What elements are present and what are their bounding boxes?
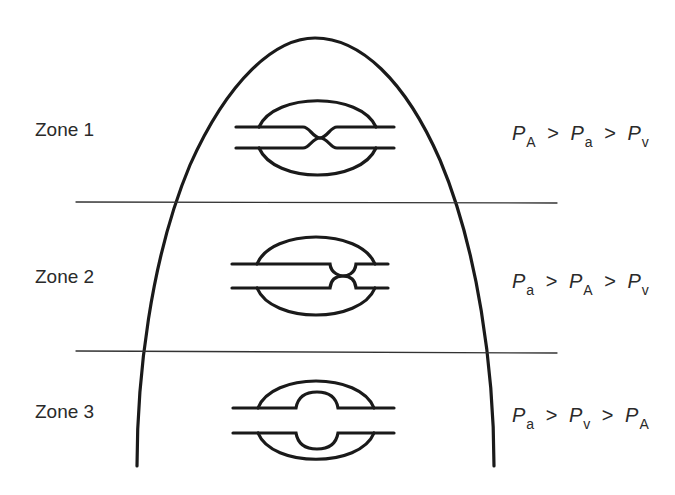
zone-1-label: Zone 1 bbox=[35, 119, 94, 141]
pressure-symbol: P bbox=[571, 122, 584, 144]
pressure-symbol: P bbox=[627, 270, 640, 292]
zone1-vessel-icon bbox=[236, 101, 394, 175]
pressure-subscript: A bbox=[639, 416, 648, 432]
zone-2-label: Zone 2 bbox=[35, 266, 94, 288]
zone-1-pressure-relation: PA > Pa > Pv bbox=[512, 122, 649, 145]
pressure-subscript: A bbox=[526, 134, 535, 150]
greater-than: > bbox=[604, 122, 616, 144]
pressure-symbol: P bbox=[512, 122, 525, 144]
pressure-subscript: a bbox=[585, 134, 593, 150]
greater-than: > bbox=[604, 270, 616, 292]
zone-3-pressure-relation: Pa > Pv > PA bbox=[512, 404, 649, 427]
pressure-symbol: P bbox=[569, 270, 582, 292]
greater-than: > bbox=[546, 270, 558, 292]
zone-2-pressure-relation: Pa > PA > Pv bbox=[512, 270, 649, 293]
zone2-vessel-icon bbox=[232, 237, 388, 315]
greater-than: > bbox=[546, 404, 558, 426]
greater-than: > bbox=[547, 122, 559, 144]
pressure-symbol: P bbox=[627, 122, 640, 144]
pressure-subscript: v bbox=[642, 134, 649, 150]
zone-divider-2-3 bbox=[76, 351, 557, 353]
pressure-subscript: a bbox=[526, 282, 534, 298]
greater-than: > bbox=[602, 404, 614, 426]
pressure-subscript: A bbox=[583, 282, 592, 298]
pressure-symbol: P bbox=[512, 404, 525, 426]
pressure-symbol: P bbox=[512, 270, 525, 292]
pressure-subscript: v bbox=[642, 282, 649, 298]
zone3-vessel-icon bbox=[233, 381, 394, 459]
zone-3-label: Zone 3 bbox=[35, 401, 94, 423]
pressure-subscript: v bbox=[583, 416, 590, 432]
pressure-symbol: P bbox=[625, 404, 638, 426]
pressure-symbol: P bbox=[569, 404, 582, 426]
zone-divider-1-2 bbox=[76, 202, 557, 203]
pressure-subscript: a bbox=[526, 416, 534, 432]
